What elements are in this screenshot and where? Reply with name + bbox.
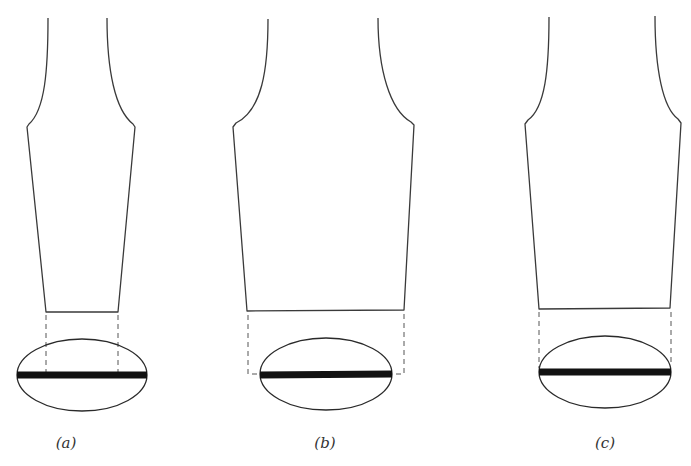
panel-label-c: (c) [595,434,615,452]
pattern-outline-c [525,16,681,309]
figure-diagram [0,0,691,466]
projection-bracket-b-right [392,314,404,374]
cross-section-bar-b [260,374,392,375]
panel-label-b: (b) [314,434,335,452]
panel-label-a: (a) [56,434,77,452]
panel-b [233,18,414,410]
panel-a [17,18,147,411]
panel-c [525,16,681,408]
projection-bracket-b [248,315,261,374]
pattern-outline-b [233,18,414,311]
pattern-outline-a [27,18,135,312]
